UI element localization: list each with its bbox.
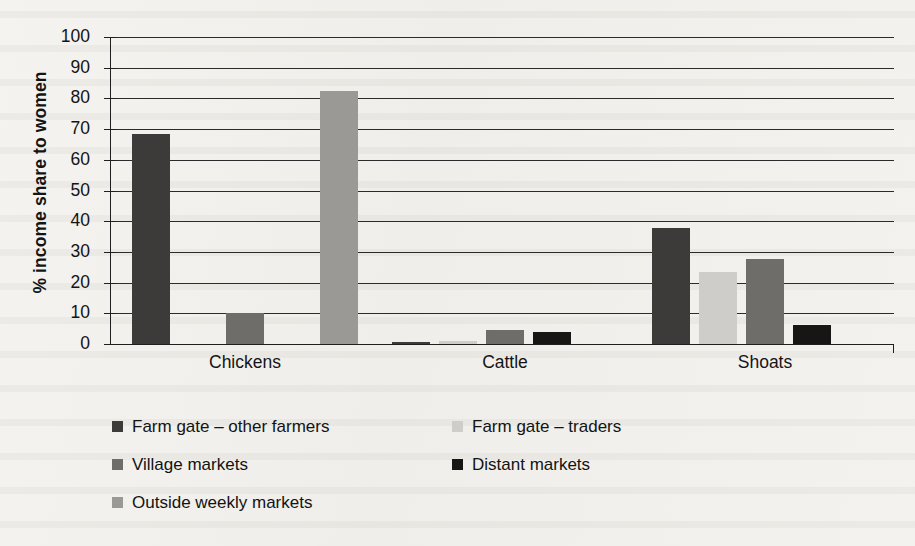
legend-label: Farm gate – other farmers bbox=[132, 418, 329, 435]
bar-cattle-farm-gate-other-farmers bbox=[392, 342, 430, 344]
gridline-60 bbox=[110, 160, 894, 161]
gridline-40 bbox=[110, 221, 894, 222]
legend-label: Distant markets bbox=[472, 456, 590, 473]
legend-label: Village markets bbox=[132, 456, 248, 473]
y-tick-label-60: 60 bbox=[30, 151, 90, 169]
bar-chickens-farm-gate-other-farmers bbox=[132, 134, 170, 344]
y-tick-10 bbox=[104, 313, 116, 314]
y-tick-label-10: 10 bbox=[30, 304, 90, 322]
bar-chart: % income share to women 0102030405060708… bbox=[0, 0, 915, 546]
bar-chickens-outside-weekly-markets bbox=[320, 91, 358, 344]
legend-item-outside-weekly-markets[interactable]: Outside weekly markets bbox=[112, 494, 312, 511]
legend-label: Outside weekly markets bbox=[132, 494, 312, 511]
gridline-50 bbox=[110, 191, 894, 192]
y-tick-label-90: 90 bbox=[30, 59, 90, 77]
plot-area: 0102030405060708090100 ChickensCattleSho… bbox=[110, 37, 894, 344]
y-tick-label-0: 0 bbox=[30, 335, 90, 353]
legend-swatch-icon bbox=[112, 421, 123, 432]
bar-shoats-farm-gate-traders bbox=[699, 272, 737, 344]
y-tick-label-100: 100 bbox=[30, 28, 90, 46]
x-axis-right-end-tick bbox=[893, 344, 894, 353]
y-tick-label-30: 30 bbox=[30, 243, 90, 261]
y-tick-label-20: 20 bbox=[30, 274, 90, 292]
y-tick-80 bbox=[104, 98, 116, 99]
legend-item-farm-gate-other-farmers[interactable]: Farm gate – other farmers bbox=[112, 418, 329, 435]
y-tick-label-50: 50 bbox=[30, 182, 90, 200]
bar-shoats-distant-markets bbox=[793, 325, 831, 344]
y-tick-30 bbox=[104, 252, 116, 253]
legend-swatch-icon bbox=[452, 459, 463, 470]
gridline-80 bbox=[110, 98, 894, 99]
y-tick-20 bbox=[104, 283, 116, 284]
legend-item-farm-gate-traders[interactable]: Farm gate – traders bbox=[452, 418, 621, 435]
bar-shoats-farm-gate-other-farmers bbox=[652, 228, 690, 344]
y-tick-label-80: 80 bbox=[30, 89, 90, 107]
gridline-90 bbox=[110, 68, 894, 69]
category-label-cattle: Cattle bbox=[405, 352, 605, 373]
y-tick-label-70: 70 bbox=[30, 120, 90, 138]
y-tick-70 bbox=[104, 129, 116, 130]
bar-chickens-village-markets bbox=[226, 313, 264, 344]
chart-legend: Farm gate – other farmersFarm gate – tra… bbox=[112, 418, 752, 528]
y-tick-60 bbox=[104, 160, 116, 161]
gridline-70 bbox=[110, 129, 894, 130]
bar-cattle-farm-gate-traders bbox=[439, 341, 477, 344]
category-label-chickens: Chickens bbox=[145, 352, 345, 373]
y-tick-label-40: 40 bbox=[30, 212, 90, 230]
y-tick-100 bbox=[104, 37, 116, 38]
legend-label: Farm gate – traders bbox=[472, 418, 621, 435]
legend-item-village-markets[interactable]: Village markets bbox=[112, 456, 248, 473]
legend-swatch-icon bbox=[112, 497, 123, 508]
y-tick-90 bbox=[104, 68, 116, 69]
category-label-shoats: Shoats bbox=[665, 352, 865, 373]
bar-cattle-village-markets bbox=[486, 330, 524, 344]
legend-item-distant-markets[interactable]: Distant markets bbox=[452, 456, 590, 473]
legend-swatch-icon bbox=[452, 421, 463, 432]
bar-cattle-distant-markets bbox=[533, 332, 571, 344]
gridline-100 bbox=[110, 37, 894, 38]
bar-shoats-village-markets bbox=[746, 259, 784, 344]
gridline-30 bbox=[110, 252, 894, 253]
y-tick-40 bbox=[104, 221, 116, 222]
legend-swatch-icon bbox=[112, 459, 123, 470]
y-tick-0 bbox=[104, 344, 116, 345]
gridline-0 bbox=[110, 344, 894, 345]
y-tick-50 bbox=[104, 191, 116, 192]
